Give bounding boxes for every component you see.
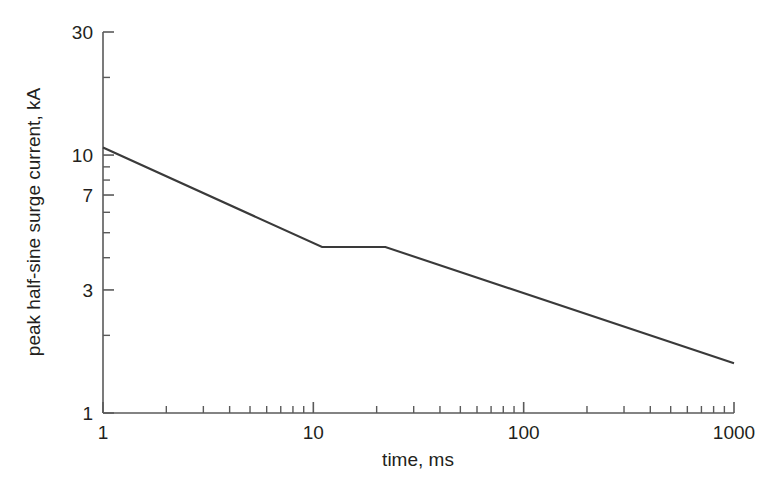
y-axis-tick-label: 10 <box>72 145 93 166</box>
y-axis-title: peak half-sine surge current, kA <box>23 88 44 357</box>
y-axis-tick-label: 7 <box>82 185 93 206</box>
x-axis-tick-label: 10 <box>303 422 324 443</box>
y-axis-tick-label: 1 <box>82 403 93 424</box>
chart-background <box>0 0 776 484</box>
x-axis-title: time, ms <box>382 449 454 470</box>
x-axis-tick-label: 1000 <box>713 422 755 443</box>
chart-figure: 1371030 1101001000 time, ms peak half-si… <box>0 0 776 484</box>
y-axis-tick-label: 3 <box>82 280 93 301</box>
surge-current-vs-time-chart: 1371030 1101001000 time, ms peak half-si… <box>0 0 776 484</box>
x-axis-tick-label: 1 <box>98 422 109 443</box>
y-axis-tick-label: 30 <box>72 22 93 43</box>
x-axis-tick-label: 100 <box>508 422 540 443</box>
